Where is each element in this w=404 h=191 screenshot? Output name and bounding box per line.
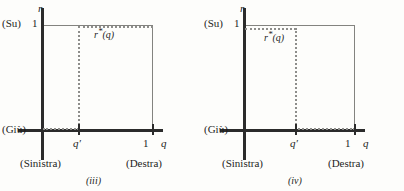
panel-caption: (iii) <box>86 176 101 186</box>
y-bottom-state-label: (Giù) <box>2 124 26 135</box>
x-tick-label-q-prime: q′ <box>290 138 298 149</box>
box-right-edge <box>152 25 153 131</box>
y-top-state-label: (Su) <box>2 18 21 29</box>
curve-segment-low <box>295 128 355 130</box>
y-axis-label: r <box>38 3 42 14</box>
y-top-value-label: 1 <box>32 18 38 29</box>
right-state-label: (Destra) <box>126 158 162 169</box>
y-axis <box>243 8 246 160</box>
x-tick-one <box>354 124 356 135</box>
y-top-value-label: 1 <box>234 18 240 29</box>
curve-segment-drop <box>295 28 297 129</box>
curve-label-arg: (q) <box>272 32 284 43</box>
curve-segment-high <box>78 26 153 28</box>
y-axis-label: r <box>240 3 244 14</box>
x-axis-label: q <box>161 138 167 149</box>
x-axis-label: q <box>363 138 369 149</box>
curve-label-arg: (q) <box>102 29 114 40</box>
box-right-edge <box>354 25 355 131</box>
panel-caption: (iv) <box>288 176 302 186</box>
y-axis <box>41 8 44 160</box>
box-top-edge <box>244 25 355 26</box>
curve-segment-low <box>43 128 79 130</box>
y-top-state-label: (Su) <box>204 18 223 29</box>
right-state-label: (Destra) <box>328 158 364 169</box>
left-state-label: (Sinistra) <box>20 158 61 169</box>
x-tick-label-one: 1 <box>345 138 351 149</box>
figure-container: r (Su) 1 (Giù) r*(q) q′ 1 q (Sinistra) (… <box>0 0 404 191</box>
x-tick-label-one: 1 <box>143 138 149 149</box>
curve-label: r*(q) <box>264 33 284 43</box>
x-tick-label-q-prime: q′ <box>73 138 81 149</box>
y-bottom-state-label: (Giù) <box>204 124 228 135</box>
x-tick-q-prime <box>295 124 297 135</box>
panel-iv: r (Su) 1 (Giù) r*(q) q′ 1 q (Sinistra) (… <box>202 0 404 191</box>
curve-segment-jump <box>78 26 80 129</box>
curve-label: r*(q) <box>94 30 114 40</box>
x-axis <box>18 129 163 132</box>
x-tick-q-prime <box>78 124 80 135</box>
panel-iii: r (Su) 1 (Giù) r*(q) q′ 1 q (Sinistra) (… <box>0 0 202 191</box>
left-state-label: (Sinistra) <box>222 158 263 169</box>
x-tick-one <box>152 124 154 135</box>
